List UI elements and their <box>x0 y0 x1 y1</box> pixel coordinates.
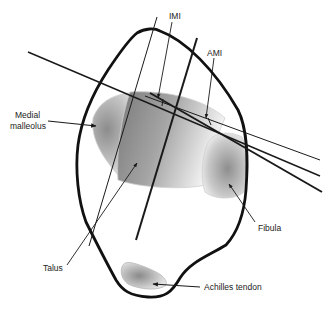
imi-label: IMI <box>169 11 181 21</box>
medial-malleolus-label-line2: malleolus <box>10 121 46 131</box>
medial-malleolus-leader <box>48 121 96 126</box>
fibula-label: Fibula <box>258 223 281 233</box>
medial-malleolus-label-line1: Medial <box>15 110 40 120</box>
ami-label: AMI <box>207 48 222 58</box>
achilles-tendon-shape <box>121 262 166 289</box>
ankle-cross-section-diagram: IMI AMI Medial malleolus Fibula Talus Ac… <box>0 0 335 313</box>
talus-label: Talus <box>43 263 63 273</box>
diagram-canvas: IMI AMI Medial malleolus Fibula Talus Ac… <box>0 0 335 313</box>
achilles-tendon-label: Achilles tendon <box>204 282 262 292</box>
